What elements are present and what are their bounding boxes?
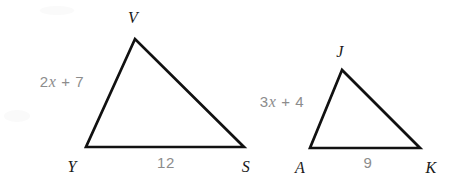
- triangle-vys-shape: [86, 39, 244, 147]
- side-yv-constant: + 7: [56, 73, 84, 90]
- vertex-label-a: A: [295, 160, 305, 176]
- side-aj-coefficient: 3: [260, 93, 269, 110]
- side-yv-variable: x: [49, 73, 57, 90]
- side-aj-variable: x: [269, 93, 277, 110]
- side-ak-label: 9: [364, 155, 373, 170]
- side-aj-label: 3x + 4: [260, 94, 305, 110]
- side-yv-coefficient: 2: [40, 73, 49, 90]
- vertex-label-k: K: [426, 160, 437, 176]
- side-yv-label: 2x + 7: [40, 74, 85, 90]
- triangle-jak-shape: [310, 70, 420, 148]
- vertex-label-y: Y: [67, 159, 76, 175]
- vertex-label-v: V: [128, 10, 138, 26]
- vertex-label-j: J: [336, 44, 343, 60]
- side-ys-label: 12: [157, 155, 175, 170]
- vertex-label-s: S: [242, 159, 250, 175]
- geometry-figure: V Y S 2x + 7 12 J A K 3x + 4 9: [0, 0, 453, 189]
- side-aj-constant: + 4: [276, 93, 304, 110]
